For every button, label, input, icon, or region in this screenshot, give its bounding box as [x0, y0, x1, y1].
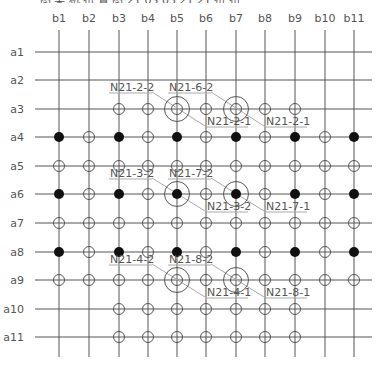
filled-pile-marker — [290, 189, 300, 199]
column-label: b2 — [82, 12, 96, 25]
column-label: b11 — [344, 12, 365, 25]
callout-label: N21-4-2 — [110, 253, 154, 266]
column-label: b8 — [258, 12, 272, 25]
row-label: a4 — [10, 131, 24, 144]
filled-pile-marker — [349, 189, 359, 199]
column-label: b5 — [170, 12, 184, 25]
callout-label: N21-7-2 — [169, 167, 213, 180]
row-label: a2 — [10, 74, 24, 87]
row-label: a9 — [10, 274, 24, 287]
column-label: b10 — [315, 12, 336, 25]
grid-lines — [35, 30, 372, 357]
filled-pile-marker — [114, 132, 124, 142]
callout-label: N21-8-2 — [169, 253, 213, 266]
row-label: a7 — [10, 217, 24, 230]
row-label: a8 — [10, 246, 24, 259]
filled-pile-marker — [290, 247, 300, 257]
row-label: a3 — [10, 103, 24, 116]
callout-label: N21-6-2 — [169, 81, 213, 94]
filled-pile-marker — [54, 189, 64, 199]
column-label: b3 — [112, 12, 126, 25]
column-label: b4 — [141, 12, 155, 25]
callout-label: N21-2-1 — [266, 115, 310, 128]
filled-pile-marker — [231, 189, 241, 199]
column-label: b6 — [199, 12, 213, 25]
filled-pile-marker — [54, 132, 64, 142]
callout-label: N21-3-2 — [207, 200, 251, 213]
callout-label: N21-3-2 — [110, 167, 154, 180]
column-label: b1 — [52, 12, 66, 25]
column-label: b7 — [229, 12, 243, 25]
callout-label: N21-7-1 — [266, 200, 310, 213]
row-label: a6 — [10, 188, 24, 201]
row-label: a1 — [10, 46, 24, 59]
callout-label: N21-4-1 — [207, 286, 251, 299]
callout-label: N21-2-1 — [207, 115, 251, 128]
filled-pile-marker — [349, 247, 359, 257]
callout-label: N21-8-1 — [266, 286, 310, 299]
filled-pile-marker — [54, 247, 64, 257]
row-label: a5 — [10, 160, 24, 173]
filled-pile-marker — [172, 189, 182, 199]
callout-label: N21-2-2 — [110, 81, 154, 94]
row-label: a10 — [3, 303, 24, 316]
row-label: a11 — [3, 331, 24, 344]
filled-pile-marker — [349, 132, 359, 142]
grid-layout-diagram: b1b2b3b4b5b6b7b8b9b10b11a1a2a3a4a5a6a7a8… — [0, 0, 380, 371]
filled-pile-marker — [290, 132, 300, 142]
filled-pile-marker — [114, 189, 124, 199]
column-label: b9 — [288, 12, 302, 25]
filled-pile-marker — [231, 247, 241, 257]
filled-pile-marker — [231, 132, 241, 142]
filled-pile-marker — [172, 132, 182, 142]
